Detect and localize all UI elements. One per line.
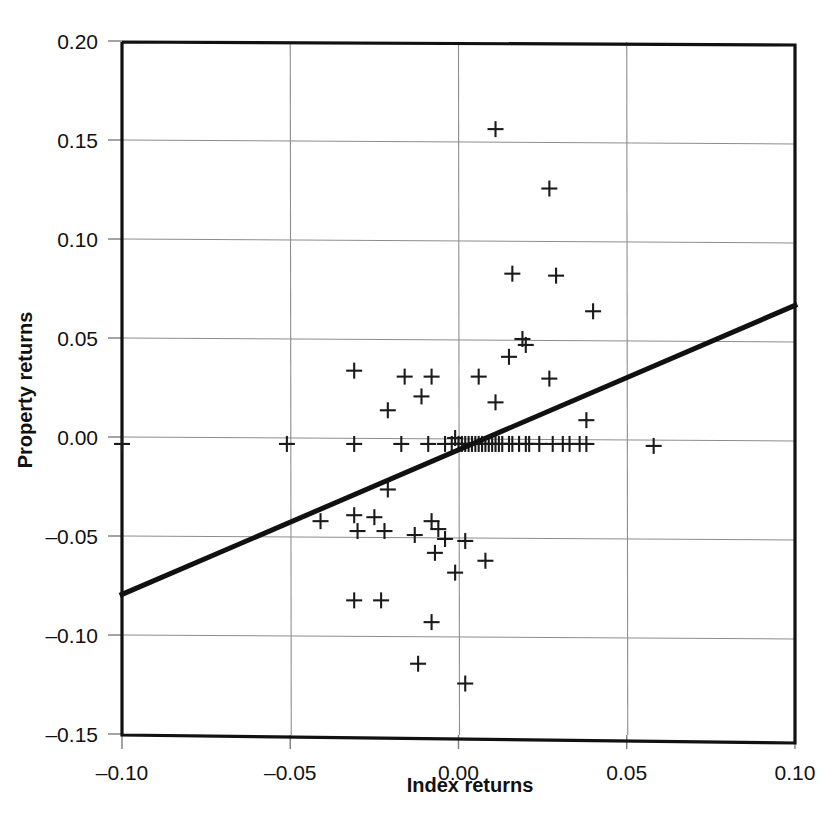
data-point	[424, 614, 440, 630]
data-point	[585, 303, 601, 319]
data-point	[447, 565, 463, 581]
data-point	[437, 531, 453, 547]
y-axis-title: Property returns	[14, 312, 36, 469]
y-tick-label: 0.15	[57, 129, 98, 152]
data-point	[578, 412, 594, 428]
scatter-chart-figure: –0.10–0.050.000.050.10 –0.15–0.10–0.050.…	[0, 0, 835, 834]
data-point	[407, 527, 423, 543]
data-point	[541, 181, 557, 197]
data-point	[541, 371, 557, 387]
data-point	[488, 121, 504, 137]
data-point	[413, 388, 429, 404]
data-point	[373, 592, 389, 608]
data-point	[578, 436, 594, 452]
y-tick-label: –0.05	[45, 525, 98, 548]
x-tick-label: –0.05	[264, 761, 317, 784]
y-tick-label: –0.15	[45, 723, 98, 746]
data-point	[477, 553, 493, 569]
data-point	[397, 369, 413, 385]
data-point	[424, 369, 440, 385]
y-tick-label: 0.00	[57, 426, 98, 449]
figure-caption	[0, 824, 835, 834]
data-point	[504, 266, 520, 282]
data-point	[366, 509, 382, 525]
data-point	[488, 394, 504, 410]
tickmarks-group	[108, 41, 795, 749]
data-point	[501, 349, 517, 365]
data-point	[427, 545, 443, 561]
data-point	[471, 369, 487, 385]
data-point	[350, 523, 366, 539]
gridlines-group	[122, 42, 795, 735]
y-tick-label: 0.05	[57, 327, 98, 350]
data-points-group	[114, 121, 662, 691]
data-point	[380, 402, 396, 418]
data-point	[346, 592, 362, 608]
y-tick-label: 0.10	[57, 228, 98, 251]
data-point	[430, 521, 446, 537]
x-tick-label: –0.10	[96, 761, 149, 784]
data-point	[313, 513, 329, 529]
data-point	[548, 268, 564, 284]
data-point	[114, 436, 130, 452]
x-tick-label: 0.10	[775, 761, 816, 784]
y-tick-label: 0.20	[57, 30, 98, 53]
x-tick-label: 0.05	[606, 761, 647, 784]
y-tick-label: –0.10	[45, 624, 98, 647]
data-point	[376, 523, 392, 539]
data-point	[346, 507, 362, 523]
y-axis-tick-labels: –0.15–0.10–0.050.000.050.100.150.20	[45, 30, 98, 746]
data-point	[424, 513, 440, 529]
scatter-plot-canvas: –0.10–0.050.000.050.10 –0.15–0.10–0.050.…	[0, 0, 835, 834]
x-axis-title: Index returns	[407, 774, 534, 796]
data-point	[410, 656, 426, 672]
data-point	[346, 363, 362, 379]
